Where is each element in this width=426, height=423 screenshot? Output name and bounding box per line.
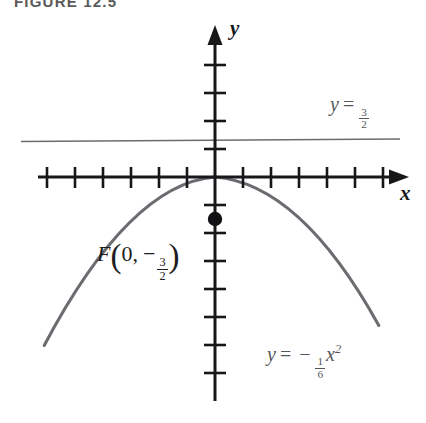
- directrix-eq-numerator: 3: [359, 107, 369, 118]
- parabola-equation-label: y=−16x2: [267, 343, 341, 380]
- focus-symbol: F: [97, 241, 110, 266]
- focus-open-paren: (: [110, 238, 121, 274]
- parabola-eq-exponent: 2: [335, 342, 341, 356]
- focus-point-label: F(0,−32): [97, 240, 180, 282]
- y-axis-arrowhead: [208, 25, 223, 45]
- parabola-eq-lhs: y: [267, 343, 276, 365]
- parabola-eq-numerator: 1: [315, 356, 325, 367]
- focus-close-paren: ): [169, 238, 180, 274]
- focus-point-marker: [208, 212, 222, 226]
- parabola-eq-variable: x: [326, 343, 335, 365]
- directrix-eq-fraction: 32: [359, 107, 369, 131]
- figure-root: FIGURE 12.5: [0, 0, 426, 423]
- directrix-eq-operator: =: [339, 93, 358, 115]
- focus-y-denominator: 2: [157, 269, 167, 283]
- directrix-eq-lhs: y: [330, 93, 339, 115]
- parabola-eq-fraction: 16: [315, 356, 325, 380]
- y-axis-label: y: [230, 18, 239, 39]
- directrix-eq-denominator: 2: [359, 118, 369, 130]
- x-axis-label: x: [400, 183, 411, 204]
- directrix-equation-label: y=32: [330, 94, 370, 131]
- focus-x-value: 0: [121, 241, 132, 266]
- directrix-line: [21, 139, 400, 142]
- focus-y-fraction: 32: [157, 256, 167, 282]
- coordinate-plot: [0, 0, 426, 423]
- parabola-eq-operator: =: [276, 343, 295, 365]
- focus-minus-sign: −: [138, 241, 156, 266]
- parabola-eq-denominator: 6: [315, 368, 325, 380]
- focus-y-numerator: 3: [157, 256, 167, 269]
- parabola-eq-minus: −: [295, 343, 314, 365]
